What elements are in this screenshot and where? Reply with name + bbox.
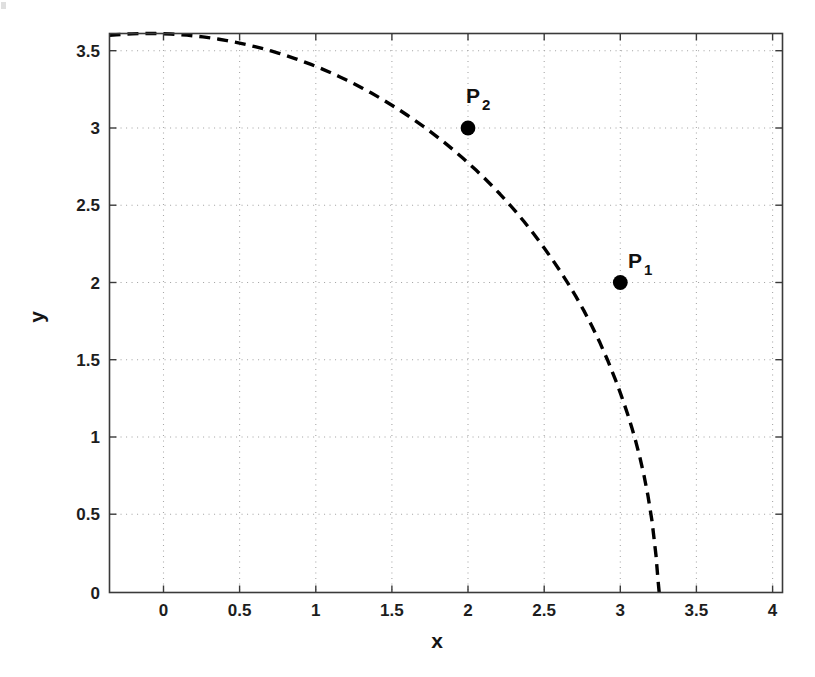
x-tick-label-4: 4 <box>768 602 777 619</box>
x-tick-label-1-5: 1.5 <box>380 602 404 619</box>
marker-p2[interactable] <box>461 121 476 136</box>
axes-frame <box>110 34 783 593</box>
point-label-p2-subscript: 2 <box>482 96 490 113</box>
y-tick-label-0: 0 <box>48 584 100 601</box>
point-label-p1-base: P <box>628 249 642 272</box>
y-tick-label-2: 2 <box>48 274 100 291</box>
y-tick-label-3: 3 <box>48 120 100 137</box>
grid-horizontal <box>110 51 783 515</box>
y-tick-label-1-5: 1.5 <box>48 351 100 368</box>
y-tick-label-2-5: 2.5 <box>48 197 100 214</box>
x-tick-label-2: 2 <box>463 602 472 619</box>
x-tick-label-1: 1 <box>311 602 320 619</box>
point-label-p2-base: P <box>466 84 480 107</box>
y-axis-label: y <box>26 311 47 323</box>
x-tick-label-3: 3 <box>616 602 625 619</box>
point-label-p1-subscript: 1 <box>644 261 652 278</box>
y-axis-ticks <box>110 51 117 515</box>
x-tick-label-0: 0 <box>159 602 168 619</box>
plot-canvas <box>0 0 815 677</box>
marker-p1[interactable] <box>613 275 628 290</box>
x-axis-ticks <box>164 586 773 593</box>
x-axis-label: x <box>431 630 443 651</box>
y-tick-label-0-5: 0.5 <box>48 506 100 523</box>
x-tick-label-0-5: 0.5 <box>228 602 252 619</box>
grid-vertical <box>164 34 773 593</box>
point-label-p1: P1 <box>628 250 650 271</box>
x-axis-ticks-top <box>164 34 773 41</box>
y-tick-label-1: 1 <box>48 429 100 446</box>
chart-figure: 0 0.5 1 1.5 2 2.5 3 3.5 0 0.5 1 1.5 2 2.… <box>0 0 815 677</box>
y-tick-label-3-5: 3.5 <box>48 42 100 59</box>
x-tick-label-3-5: 3.5 <box>685 602 709 619</box>
y-axis-ticks-right <box>776 51 783 515</box>
x-tick-label-2-5: 2.5 <box>532 602 556 619</box>
point-label-p2: P2 <box>466 85 488 106</box>
data-curve <box>110 34 660 593</box>
